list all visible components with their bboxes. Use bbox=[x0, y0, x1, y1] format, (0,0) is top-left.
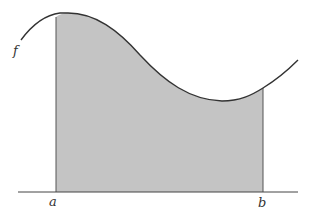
shaded-area bbox=[56, 13, 263, 192]
area-under-curve-diagram: f a b bbox=[0, 0, 318, 215]
label-a: a bbox=[49, 194, 57, 209]
label-b: b bbox=[258, 195, 266, 210]
curve-label-f: f bbox=[12, 43, 20, 58]
